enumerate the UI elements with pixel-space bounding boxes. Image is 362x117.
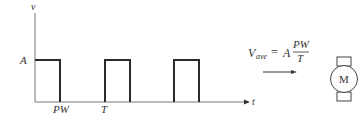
formula-denominator: T (297, 52, 304, 64)
pulse-1 (35, 60, 60, 102)
y-axis-label: v (31, 1, 36, 12)
pulse-2 (105, 60, 130, 102)
formula-equals: = (271, 45, 278, 59)
x-axis-label: t (252, 96, 255, 107)
pulse-3 (174, 60, 199, 102)
formula-subscript: ave (256, 52, 268, 61)
average-voltage-formula: V ave = A PW T (248, 38, 310, 64)
motor-label: M (339, 73, 349, 85)
pwm-diagram: v A t PW T V ave = A PW T M (0, 0, 362, 117)
pulse-width-label: PW (52, 103, 70, 115)
drive-arrowhead-icon (291, 70, 297, 74)
x-axis-arrowhead-icon (244, 100, 250, 105)
formula-numerator: PW (292, 38, 310, 50)
motor-icon: M (331, 57, 358, 101)
formula-coefficient: A (282, 46, 291, 60)
amplitude-label: A (19, 54, 27, 66)
period-label: T (101, 103, 108, 115)
